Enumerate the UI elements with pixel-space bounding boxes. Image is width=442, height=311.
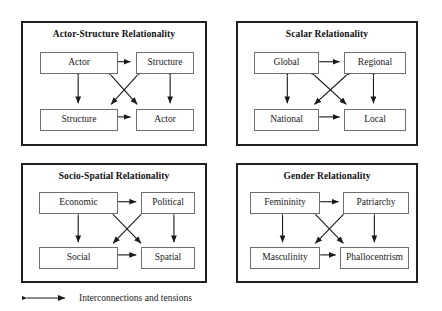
concept-box-top-left: Economic [39, 192, 118, 214]
panel-title: Scalar Relationality [238, 29, 416, 39]
panel-actor-structure: Actor-Structure Relationality Actor Stru… [21, 21, 207, 146]
concept-box-top-left: Actor [40, 52, 118, 74]
panel-title: Actor-Structure Relationality [23, 29, 205, 39]
double-headed-arrow-icon [22, 291, 70, 305]
legend-label: Interconnections and tensions [79, 293, 192, 303]
panel-title: Socio-Spatial Relationality [23, 171, 205, 181]
panel-title: Gender Relationality [238, 171, 416, 181]
concept-box-bottom-right: Phallocentrism [340, 247, 409, 269]
concept-box-bottom-left: Structure [40, 109, 118, 131]
concept-box-top-right: Patriarchy [343, 192, 409, 214]
concept-box-top-right: Structure [136, 52, 194, 74]
relationality-figure: Actor-Structure Relationality Actor Stru… [0, 0, 442, 311]
concept-box-top-left: Global [254, 52, 319, 74]
concept-box-bottom-left: Masculinity [250, 247, 320, 269]
concept-box-top-right: Regional [344, 52, 406, 74]
concept-box-bottom-right: Spatial [141, 247, 195, 269]
concept-box-top-left: Femininity [250, 192, 320, 214]
concept-box-bottom-right: Local [344, 109, 406, 131]
panel-socio-spatial: Socio-Spatial Relationality Economic Pol… [21, 163, 207, 283]
concept-box-bottom-left: Social [39, 247, 118, 269]
concept-box-bottom-right: Actor [136, 109, 194, 131]
panel-gender: Gender Relationality Femininity Patriarc… [236, 163, 418, 283]
concept-box-bottom-left: National [254, 109, 319, 131]
concept-box-top-right: Political [141, 192, 195, 214]
panel-scalar: Scalar Relationality Global Regional Nat… [236, 21, 418, 146]
legend: Interconnections and tensions [22, 288, 322, 308]
